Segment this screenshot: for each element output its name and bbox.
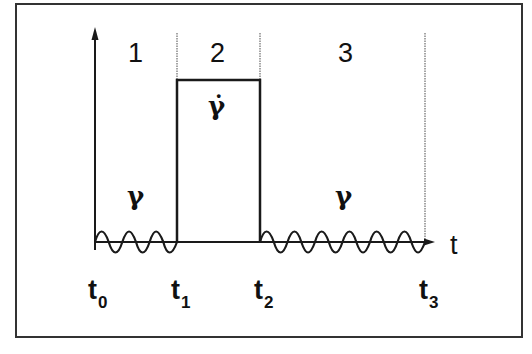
region-label-1: 1 <box>128 40 143 67</box>
time-mark-t0: t0 <box>88 277 107 311</box>
x-axis-label: t <box>450 232 458 259</box>
time-mark-t2: t2 <box>254 277 273 311</box>
strain-rate-symbol-region-2: γ̇ <box>208 93 225 119</box>
strain-symbol-region-1: γ <box>127 183 144 209</box>
time-mark-t1: t1 <box>171 277 190 311</box>
time-mark-t3: t3 <box>419 277 438 311</box>
region-label-2: 2 <box>210 40 225 67</box>
y-axis-arrow-icon <box>92 27 99 40</box>
strain-symbol-region-3: γ <box>335 183 352 209</box>
region-label-3: 3 <box>338 40 353 67</box>
x-axis-arrow-icon <box>424 239 435 246</box>
